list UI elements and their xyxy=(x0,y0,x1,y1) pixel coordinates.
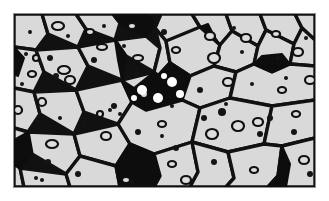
solid-particle xyxy=(24,52,28,56)
solid-particle xyxy=(36,120,40,124)
solid-particle xyxy=(160,134,164,138)
open-void xyxy=(122,177,130,183)
solid-particle xyxy=(45,159,51,165)
solid-particle xyxy=(276,56,280,60)
solid-particle xyxy=(111,103,117,109)
solid-particle xyxy=(232,26,236,30)
solid-particle xyxy=(40,178,44,182)
solid-particle xyxy=(197,87,203,93)
open-void xyxy=(14,106,22,114)
solid-particle xyxy=(82,120,86,124)
open-void xyxy=(86,29,94,35)
open-void xyxy=(38,98,46,106)
solid-particle xyxy=(218,108,226,116)
solid-particle xyxy=(133,71,139,77)
grain-structure-diagram xyxy=(14,14,315,187)
solid-particle xyxy=(91,57,97,63)
open-void xyxy=(46,140,58,148)
solid-particle xyxy=(307,171,313,177)
open-void xyxy=(208,53,220,63)
open-void xyxy=(168,161,176,167)
open-void xyxy=(181,176,191,184)
open-void xyxy=(128,23,136,29)
solid-particle xyxy=(173,145,179,151)
solid-particle xyxy=(291,129,297,135)
open-void xyxy=(293,48,303,56)
solid-particle xyxy=(75,171,81,177)
solid-particle xyxy=(108,108,112,112)
solid-particle xyxy=(47,55,53,61)
open-void xyxy=(65,76,75,84)
open-void xyxy=(172,47,180,53)
open-void xyxy=(206,129,218,139)
solid-particle xyxy=(161,29,167,35)
white-inclusion xyxy=(176,90,184,98)
open-void xyxy=(58,66,70,74)
open-void xyxy=(205,32,215,40)
solid-particle xyxy=(130,180,134,184)
white-inclusion xyxy=(167,77,177,87)
solid-particle xyxy=(224,102,228,106)
open-void xyxy=(101,132,111,140)
white-inclusion xyxy=(153,93,163,103)
open-void xyxy=(133,55,143,61)
white-inclusion xyxy=(131,95,137,101)
solid-particle xyxy=(257,131,263,137)
solid-particle xyxy=(102,24,106,28)
solid-particle xyxy=(267,115,273,121)
solid-particle xyxy=(118,112,122,116)
solid-particle xyxy=(122,44,126,48)
solid-particle xyxy=(170,104,174,108)
white-inclusion xyxy=(161,73,167,79)
white-inclusion xyxy=(137,85,147,95)
open-void xyxy=(253,118,263,126)
open-void xyxy=(158,121,166,127)
solid-particle xyxy=(211,159,217,165)
open-void xyxy=(33,55,39,61)
open-void xyxy=(241,34,251,42)
solid-particle xyxy=(53,73,59,79)
open-void xyxy=(28,71,36,77)
open-void xyxy=(97,111,103,117)
open-void xyxy=(272,31,280,37)
open-void xyxy=(250,167,258,173)
open-void xyxy=(299,156,309,164)
solid-particle xyxy=(20,82,24,86)
open-void xyxy=(52,22,64,30)
solid-particle xyxy=(304,36,308,40)
micrograph-panel xyxy=(13,13,316,188)
solid-particle xyxy=(28,30,32,34)
open-void xyxy=(223,78,233,86)
open-void xyxy=(232,121,244,131)
solid-particle xyxy=(250,82,254,86)
open-void xyxy=(278,87,286,93)
solid-particle xyxy=(135,129,141,135)
solid-particle xyxy=(240,50,244,54)
screenshot-root xyxy=(0,0,329,201)
open-void xyxy=(292,111,300,117)
solid-particle xyxy=(34,176,38,180)
solid-particle xyxy=(66,34,70,38)
solid-particle xyxy=(58,116,62,120)
solid-particle xyxy=(201,115,207,121)
solid-particle xyxy=(284,76,288,80)
open-void xyxy=(305,76,315,84)
open-void xyxy=(97,44,107,50)
